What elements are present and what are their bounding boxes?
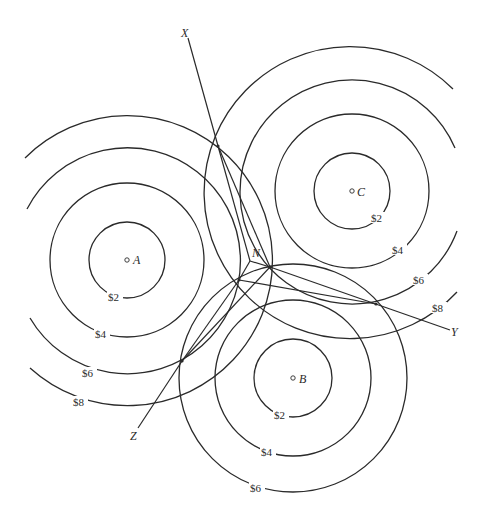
contours-a [25, 116, 272, 406]
label-c: C [357, 185, 366, 199]
label-a: A [132, 253, 141, 267]
line-x [188, 38, 218, 146]
cost-a-4: $4 [95, 328, 107, 340]
cost-b-6: $6 [250, 482, 262, 494]
isocost-diagram: A B C N X Y Z $2 $4 $6 $8 $2 $4 $6 $8 $2… [0, 0, 484, 518]
label-b: B [299, 372, 307, 386]
point-b-marker [291, 376, 295, 380]
line-z-inner [182, 280, 239, 361]
point-c-marker [350, 189, 354, 193]
label-z: Z [130, 429, 137, 443]
contour-c-8 [204, 47, 457, 339]
intersection-y [374, 302, 377, 305]
intersection-left [237, 278, 240, 281]
label-x: X [180, 26, 189, 40]
point-a-marker [125, 258, 129, 262]
y-inner-2 [239, 280, 376, 304]
label-n: N [251, 246, 261, 260]
cost-a-8: $8 [73, 396, 85, 408]
contour-a-8 [25, 116, 272, 406]
cost-b-4: $4 [261, 446, 273, 458]
label-y: Y [451, 325, 459, 339]
intersection-z [180, 359, 183, 362]
cost-c-6: $6 [413, 274, 425, 286]
cost-c-2: $2 [371, 212, 382, 224]
intersection-right [268, 265, 271, 268]
cost-a-6: $6 [82, 367, 94, 379]
cost-a-2: $2 [108, 291, 119, 303]
cost-c-8: $8 [432, 302, 444, 314]
z-inner-2 [182, 267, 270, 361]
line-x-inner [218, 146, 250, 261]
intersection-x [216, 144, 219, 147]
cost-c-4: $4 [392, 244, 404, 256]
contours-c [204, 47, 457, 339]
cost-b-2: $2 [274, 409, 285, 421]
line-z [138, 361, 182, 428]
